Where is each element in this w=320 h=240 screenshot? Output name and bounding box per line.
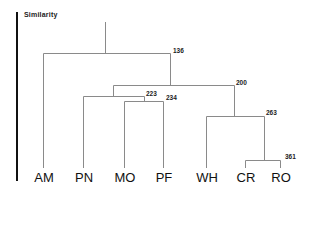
leaf-label-wh: WH	[196, 170, 218, 185]
leaf-label-pn: PN	[75, 170, 93, 185]
leaf-label-am: AM	[34, 170, 54, 185]
leaf-label-ro: RO	[271, 170, 291, 185]
branch-234	[125, 102, 164, 169]
node-label-223: 223	[146, 90, 157, 97]
leaf-label-cr: CR	[237, 170, 256, 185]
node-label-234: 234	[166, 94, 177, 101]
node-label-136: 136	[173, 47, 184, 54]
node-label-263: 263	[266, 109, 277, 116]
branch-136	[114, 54, 235, 86]
branch-361	[246, 161, 281, 169]
leaf-label-pf: PF	[156, 170, 173, 185]
node-label-361: 361	[285, 153, 296, 160]
branch-223	[84, 86, 145, 169]
branch-200	[207, 86, 265, 169]
leaf-label-mo: MO	[115, 170, 136, 185]
node-label-200: 200	[236, 79, 247, 86]
